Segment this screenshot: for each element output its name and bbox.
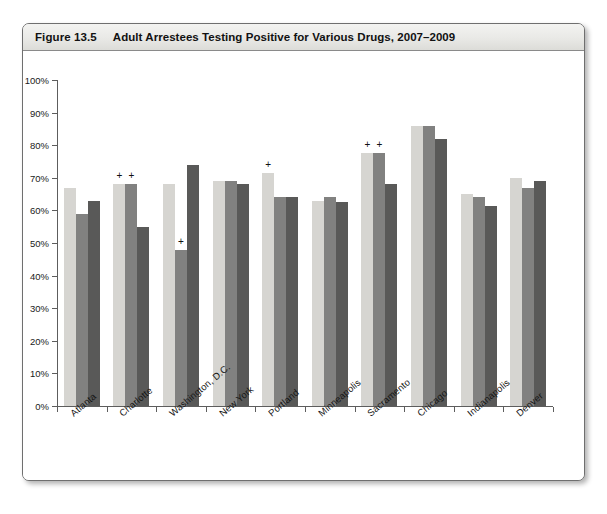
y-axis-label: 20% bbox=[22, 335, 49, 346]
bar bbox=[336, 202, 348, 406]
bar-group: ++ bbox=[361, 80, 397, 406]
chart-canvas: 0%10%20%30%40%50%60%70%80%90%100%++++++ … bbox=[23, 52, 584, 481]
bar-group: ++ bbox=[113, 80, 149, 406]
bar bbox=[411, 126, 423, 406]
y-axis-tick bbox=[52, 113, 57, 114]
figure-title: Adult Arrestees Testing Positive for Var… bbox=[113, 31, 455, 43]
bar bbox=[510, 178, 522, 406]
bar bbox=[485, 206, 497, 406]
bar bbox=[76, 214, 88, 406]
bar-group: + bbox=[163, 80, 199, 406]
bar-annotation-plus: + bbox=[265, 160, 271, 170]
bar-annotation-plus: + bbox=[376, 140, 382, 150]
y-axis-label: 90% bbox=[22, 107, 49, 118]
y-axis-label: 60% bbox=[22, 205, 49, 216]
bar bbox=[361, 153, 373, 406]
y-axis-label: 50% bbox=[22, 238, 49, 249]
bar bbox=[163, 184, 175, 406]
y-axis-tick bbox=[52, 243, 57, 244]
bar bbox=[423, 126, 435, 406]
figure-caption-bar: Figure 13.5 Adult Arrestees Testing Posi… bbox=[23, 24, 584, 51]
y-axis-tick bbox=[52, 80, 57, 81]
bar bbox=[113, 184, 125, 406]
bar-annotation-plus: + bbox=[116, 171, 122, 181]
y-axis-tick bbox=[52, 308, 57, 309]
bar bbox=[534, 181, 546, 406]
y-axis-label: 100% bbox=[22, 75, 49, 86]
bar bbox=[125, 184, 137, 406]
y-axis-line bbox=[57, 80, 58, 407]
bar bbox=[324, 197, 336, 406]
bar bbox=[137, 227, 149, 406]
y-axis-tick bbox=[52, 341, 57, 342]
bar bbox=[461, 194, 473, 406]
y-axis-tick bbox=[52, 210, 57, 211]
bar bbox=[175, 250, 187, 406]
y-axis-tick bbox=[52, 178, 57, 179]
y-axis-label: 30% bbox=[22, 303, 49, 314]
bar bbox=[187, 165, 199, 406]
y-axis-tick bbox=[52, 373, 57, 374]
bar bbox=[385, 184, 397, 406]
figure-box: Figure 13.5 Adult Arrestees Testing Posi… bbox=[22, 23, 585, 481]
bar bbox=[88, 201, 100, 406]
x-axis-tick bbox=[553, 407, 554, 412]
y-axis-tick bbox=[52, 276, 57, 277]
y-axis-label: 10% bbox=[22, 368, 49, 379]
y-axis-label: 40% bbox=[22, 270, 49, 281]
bar-group bbox=[213, 80, 249, 406]
bar-annotation-plus: + bbox=[364, 140, 370, 150]
y-axis-label: 80% bbox=[22, 140, 49, 151]
y-axis-tick bbox=[52, 145, 57, 146]
bar-annotation-plus: + bbox=[128, 171, 134, 181]
bar bbox=[286, 197, 298, 406]
bar bbox=[373, 153, 385, 406]
bar-group: + bbox=[262, 80, 298, 406]
bar bbox=[435, 139, 447, 406]
y-axis-label: 0% bbox=[22, 401, 49, 412]
bar bbox=[64, 188, 76, 406]
figure-number: Figure 13.5 bbox=[35, 31, 97, 43]
bar bbox=[262, 173, 274, 406]
bar-group bbox=[64, 80, 100, 406]
bar-group bbox=[510, 80, 546, 406]
bar-group bbox=[312, 80, 348, 406]
bar-group bbox=[461, 80, 497, 406]
bar-group bbox=[411, 80, 447, 406]
bar-annotation-plus: + bbox=[178, 237, 184, 247]
bar bbox=[274, 197, 286, 406]
bar bbox=[473, 197, 485, 406]
x-axis-category-labels: AtlantaCharlotteWashington, D.C.New York… bbox=[57, 408, 553, 478]
screenshot-root: Figure 13.5 Adult Arrestees Testing Posi… bbox=[0, 0, 607, 514]
plot-area: 0%10%20%30%40%50%60%70%80%90%100%++++++ bbox=[57, 80, 553, 407]
bar bbox=[237, 184, 249, 406]
bar bbox=[312, 201, 324, 406]
bar bbox=[522, 188, 534, 406]
y-axis-label: 70% bbox=[22, 172, 49, 183]
